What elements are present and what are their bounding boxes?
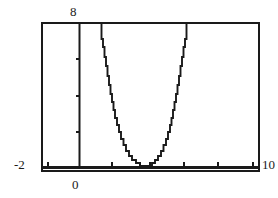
x-max-label: 10: [262, 158, 275, 171]
x-min-label: -2: [14, 158, 25, 171]
y-max-label: 8: [70, 5, 77, 18]
x-origin-label: 0: [72, 178, 79, 191]
plot-canvas: [0, 0, 278, 198]
graph-figure: 8 -2 0 10: [0, 0, 278, 198]
plot-frame: [42, 23, 259, 171]
